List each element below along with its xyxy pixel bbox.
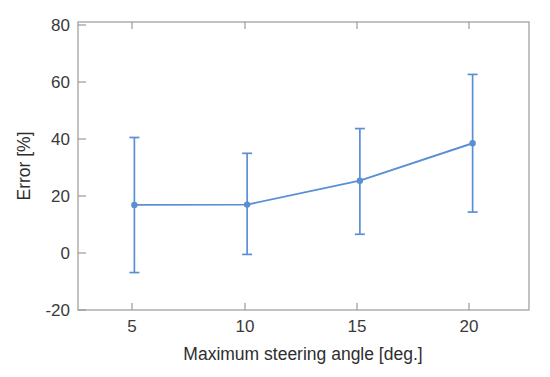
plot-area-frame [78,22,529,310]
y-tick-label-minus20: -20 [45,301,70,320]
x-tick-label-15: 15 [348,317,367,336]
x-tick-label-5: 5 [127,317,136,336]
data-point-marker [131,202,137,208]
x-tick-label-20: 20 [460,317,479,336]
data-point-marker [244,201,250,207]
error-line-chart: 80 60 40 20 0 -20 5 10 15 20 Maximum ste… [0,0,550,377]
y-tick-label-20: 20 [51,187,70,206]
y-tick-label-80: 80 [51,16,70,35]
y-tick-label-0: 0 [61,244,70,263]
y-tick-label-40: 40 [51,130,70,149]
x-tick-label-10: 10 [236,317,255,336]
data-point-marker [357,177,363,183]
x-axis-title: Maximum steering angle [deg.] [183,344,422,364]
data-point-marker [469,140,475,146]
chart-figure: 80 60 40 20 0 -20 5 10 15 20 Maximum ste… [0,0,550,377]
y-tick-label-60: 60 [51,73,70,92]
y-axis-title: Error [%] [14,131,34,200]
